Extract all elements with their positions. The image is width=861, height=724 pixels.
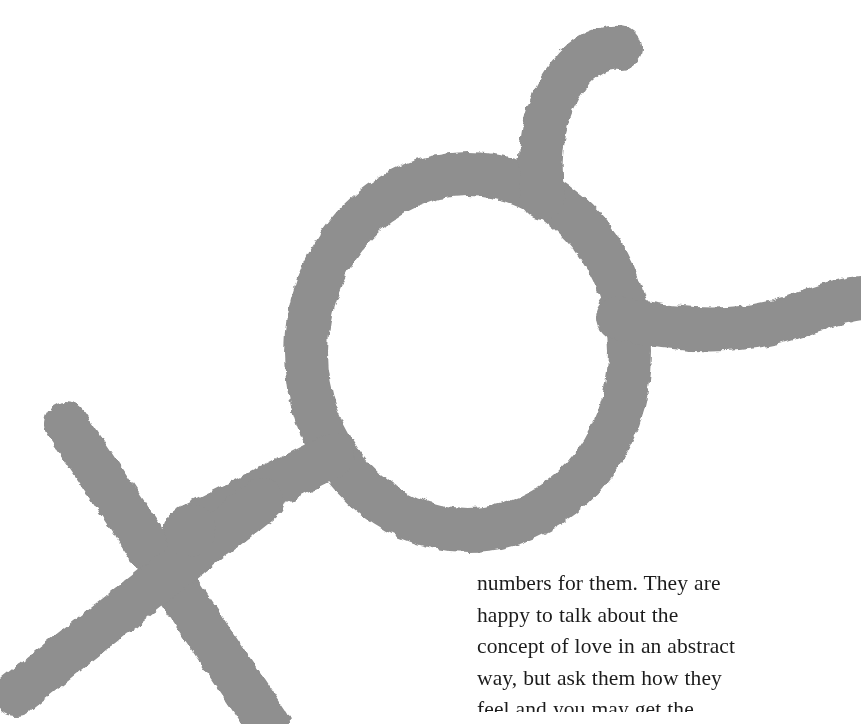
body-text-line-1: numbers for them. They are — [477, 568, 861, 600]
body-text-block: numbers for them. They are happy to talk… — [477, 568, 861, 712]
body-text-line-2: happy to talk about the — [477, 600, 861, 632]
body-text-line-5: feel and you may get the — [477, 694, 861, 712]
scanned-page: numbers for them. They are happy to talk… — [0, 0, 861, 724]
body-text-line-4: way, but ask them how they — [477, 663, 861, 695]
body-text-line-3: concept of love in an abstract — [477, 631, 861, 663]
